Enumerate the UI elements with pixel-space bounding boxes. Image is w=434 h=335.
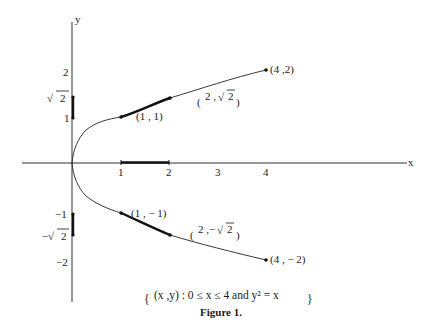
x-axis-label: x: [408, 156, 414, 168]
label-point-2-negroot2: ( 2 ,− √ 2 ): [190, 223, 240, 242]
svg-text:2: 2: [228, 90, 234, 102]
point-1-neg1: [119, 211, 123, 215]
svg-text:}: }: [307, 293, 313, 305]
y-tick-1: [71, 116, 74, 119]
svg-text:2 ,: 2 ,: [205, 90, 216, 102]
svg-text:2: 2: [60, 92, 66, 104]
x-tick-label-2: 2: [166, 166, 172, 178]
y-tick-negroot2: [71, 233, 74, 236]
svg-text:2 ,−: 2 ,−: [198, 223, 215, 235]
label-point-4-2: (4 ,2): [270, 63, 294, 76]
parabola-diagram: y x 1 2 3 4 2 √ 2 1 −1 − √ 2 −2 (1 , 1) …: [0, 0, 434, 335]
svg-text:√: √: [217, 224, 224, 236]
svg-text:(x ,y) : 0 ≤ x ≤ 4 and y² = x: (x ,y) : 0 ≤ x ≤ 4 and y² = x: [154, 289, 279, 302]
y-tick-label-neg1: −1: [55, 208, 67, 220]
svg-text:(: (: [197, 96, 201, 109]
svg-text:2: 2: [61, 230, 67, 242]
point-2-negroot2: [168, 233, 172, 237]
point-2-root2: [168, 96, 172, 100]
label-point-2-root2: ( 2 , √ 2 ): [197, 90, 240, 109]
y-axis-label: y: [75, 13, 81, 25]
svg-text:): ): [236, 96, 240, 109]
y-tick-label-negroot2: − √ 2: [42, 229, 69, 242]
y-tick-label-1: 1: [64, 112, 70, 124]
figure-caption: Figure 1.: [200, 306, 242, 318]
point-4-neg2: [264, 258, 268, 262]
svg-text:√: √: [47, 92, 54, 104]
x-tick-label-3: 3: [215, 166, 221, 178]
svg-text:√: √: [218, 91, 225, 103]
point-4-2: [264, 68, 268, 72]
svg-text:{: {: [144, 293, 150, 305]
svg-text:): ): [236, 229, 240, 242]
y-tick-label-2: 2: [63, 66, 69, 78]
svg-text:(: (: [190, 229, 194, 242]
label-point-1-1: (1 , 1): [136, 110, 163, 123]
upper-branch-curve: [72, 70, 266, 163]
y-tick-label-neg2: −2: [56, 256, 68, 268]
label-point-1-neg1: (1 , − 1): [131, 207, 167, 220]
point-1-1: [119, 115, 123, 119]
svg-text:√: √: [48, 230, 55, 242]
x-tick-label-4: 4: [263, 166, 269, 178]
svg-text:2: 2: [227, 223, 233, 235]
x-tick-label-1: 1: [118, 166, 124, 178]
y-tick-root2: [71, 95, 74, 98]
y-tick-label-root2: √ 2: [47, 91, 69, 104]
label-point-4-neg2: (4 , − 2): [270, 253, 306, 266]
y-tick-neg1: [71, 212, 74, 215]
set-definition: { (x ,y) : 0 ≤ x ≤ 4 and y² = x }: [144, 289, 313, 305]
